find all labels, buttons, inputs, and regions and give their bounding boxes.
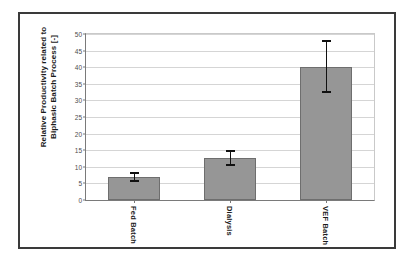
error-bar xyxy=(326,40,327,93)
y-tick-label: 5 xyxy=(78,180,82,187)
figure-root: Relative Productivity related to Biphasi… xyxy=(0,0,415,264)
y-tick-label: 25 xyxy=(75,114,82,121)
error-bar-cap-lower xyxy=(130,180,139,182)
x-category-label-vef-batch: VEF Batch xyxy=(321,206,330,245)
error-bar-cap-upper xyxy=(322,40,331,42)
x-tick-mark xyxy=(134,200,135,203)
y-tick-mark xyxy=(83,100,86,101)
y-tick-mark xyxy=(83,117,86,118)
y-tick-label: 20 xyxy=(75,130,82,137)
error-bar-cap-lower xyxy=(226,164,235,166)
y-tick-mark xyxy=(83,83,86,84)
y-tick-mark xyxy=(83,183,86,184)
plot-area: 05101520253035404550 Fed BatchDialysisVE… xyxy=(85,33,375,201)
y-axis-title-line-2: Biphasic Batch Process [-] xyxy=(49,35,59,139)
y-tick-label: 15 xyxy=(75,147,82,154)
y-tick-label: 50 xyxy=(75,31,82,38)
error-bar-cap-upper xyxy=(226,150,235,152)
y-tick-mark xyxy=(83,200,86,201)
x-tick-mark xyxy=(230,200,231,203)
x-category-label-fed-batch: Fed Batch xyxy=(129,206,138,244)
y-tick-label: 40 xyxy=(75,64,82,71)
error-bar-cap-lower xyxy=(322,91,331,93)
x-tick-mark xyxy=(326,200,327,203)
error-bar-cap-upper xyxy=(130,172,139,174)
y-tick-label: 10 xyxy=(75,163,82,170)
y-tick-mark xyxy=(83,166,86,167)
y-axis-title-line-1: Relative Productivity related to xyxy=(39,27,49,148)
y-axis-title: Relative Productivity related to Biphasi… xyxy=(32,3,66,171)
x-category-label-dialysis: Dialysis xyxy=(225,206,234,236)
bar-chart: Relative Productivity related to Biphasi… xyxy=(20,14,394,247)
y-tick-mark xyxy=(83,34,86,35)
y-tick-label: 35 xyxy=(75,80,82,87)
y-tick-mark xyxy=(83,150,86,151)
y-tick-mark xyxy=(83,133,86,134)
figure-frame: Relative Productivity related to Biphasi… xyxy=(18,12,396,249)
bar-group[interactable] xyxy=(204,34,256,200)
y-tick-mark xyxy=(83,50,86,51)
y-tick-label: 45 xyxy=(75,47,82,54)
y-tick-label: 0 xyxy=(78,197,82,204)
y-tick-mark xyxy=(83,67,86,68)
y-tick-label: 30 xyxy=(75,97,82,104)
